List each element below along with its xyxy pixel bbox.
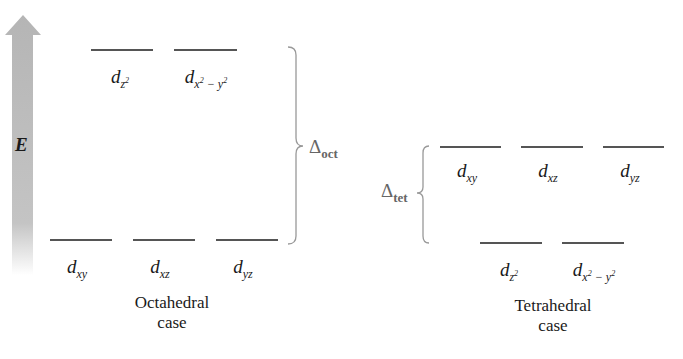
tet-label-dxz: dxz: [538, 160, 558, 186]
tet-level-dxz: [521, 146, 583, 148]
tet-label-dxy: dxy: [457, 160, 477, 186]
tet-label-dyz: dyz: [620, 160, 640, 186]
oct-caption: Octahedral case: [135, 293, 210, 333]
oct-level-dyz: [216, 239, 278, 241]
oct-label-dz2: dz2: [111, 66, 129, 92]
energy-label: E: [15, 134, 28, 156]
tet-level-dyz: [603, 146, 664, 148]
oct-level-dx2y2: [174, 49, 237, 51]
oct-label-dxy: dxy: [67, 256, 87, 282]
tet-caption: Tetrahedral case: [514, 296, 591, 336]
oct-label-dx2y2: dx2 − y2: [185, 66, 227, 92]
oct-brace-icon: [286, 46, 306, 246]
delta-oct-label: Δoct: [309, 136, 338, 162]
oct-label-dxz: dxz: [150, 256, 170, 282]
oct-level-dz2: [91, 49, 153, 51]
delta-tet-label: Δtet: [381, 180, 408, 206]
oct-level-dxy: [50, 239, 112, 241]
tet-level-dx2y2: [562, 242, 624, 244]
oct-label-dyz: dyz: [233, 256, 253, 282]
tet-label-dz2: dz2: [500, 259, 518, 285]
oct-level-dxz: [133, 239, 195, 241]
tet-label-dx2y2: dx2 − y2: [573, 259, 615, 285]
tet-level-dz2: [480, 242, 542, 244]
tet-brace-icon: [416, 145, 432, 245]
tet-level-dxy: [440, 146, 501, 148]
